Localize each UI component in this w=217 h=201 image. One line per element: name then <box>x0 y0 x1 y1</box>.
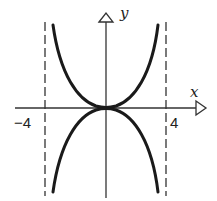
y-axis-arrow-icon <box>99 13 113 22</box>
graph-canvas <box>0 0 217 201</box>
y-axis-label: y <box>120 4 128 22</box>
x-axis-label: x <box>190 83 198 101</box>
tick-label-neg4: −4 <box>14 114 31 131</box>
tick-label-4: 4 <box>170 114 178 131</box>
x-axis-arrow-icon <box>196 101 206 115</box>
